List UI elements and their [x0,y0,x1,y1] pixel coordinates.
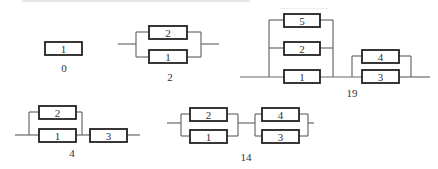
diagram-0: 10 [45,42,82,74]
component-block-1: 1 [190,130,227,143]
component-block-3: 3 [262,130,299,143]
diagram-caption: 0 [61,62,67,74]
block-label: 1 [165,51,171,63]
diagram-19: 5214319 [240,14,430,99]
block-label: 1 [299,71,305,83]
component-block-1: 1 [45,42,82,55]
component-block-5: 5 [284,14,320,27]
block-label: 3 [106,130,112,142]
diagram-4: 2134 [15,106,140,159]
diagram-14: 214314 [167,108,314,163]
component-block-2: 2 [149,26,187,39]
block-label: 2 [165,27,171,39]
block-label: 2 [55,107,61,119]
component-block-3: 3 [90,129,127,142]
component-block-2: 2 [284,42,320,55]
block-label: 3 [278,131,284,143]
diagram-caption: 2 [167,71,173,83]
diagram-2: 212 [118,26,219,83]
block-label: 1 [55,130,61,142]
block-label: 2 [299,43,305,55]
block-diagram-canvas: 1021252143192134214314 [0,0,438,169]
block-label: 5 [299,15,305,27]
block-label: 3 [378,71,384,83]
block-label: 2 [206,109,212,121]
component-block-1: 1 [284,70,320,83]
component-block-4: 4 [262,108,299,121]
component-block-1: 1 [149,50,187,63]
component-block-2: 2 [190,108,227,121]
diagram-caption: 19 [347,87,359,99]
block-label: 4 [278,109,284,121]
component-block-1: 1 [39,129,76,142]
component-block-4: 4 [362,50,399,63]
diagram-caption: 14 [241,151,253,163]
component-block-2: 2 [39,106,76,119]
block-label: 4 [378,51,384,63]
diagram-caption: 4 [69,147,75,159]
block-label: 1 [61,43,67,55]
component-block-3: 3 [362,70,399,83]
block-label: 1 [206,131,212,143]
